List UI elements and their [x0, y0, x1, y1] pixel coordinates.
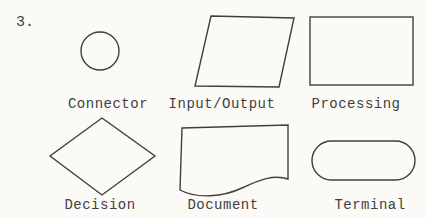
terminal-label: Terminal	[305, 197, 427, 213]
processing-label: Processing	[291, 96, 421, 112]
connector-circle-symbol	[81, 32, 119, 70]
decision-label: Decision	[35, 197, 165, 213]
document-label: Document	[158, 197, 288, 213]
processing-rectangle-symbol	[310, 17, 413, 85]
connector-label: Connector	[43, 96, 173, 112]
input-output-label: Input/Output	[157, 96, 287, 112]
decision-diamond-symbol	[50, 118, 155, 195]
document-symbol	[180, 125, 288, 196]
flowchart-symbols-figure: 3. Connector Input/Output Processing Dec…	[0, 0, 427, 218]
terminal-stadium-symbol	[312, 141, 415, 180]
input-output-parallelogram-symbol	[195, 16, 294, 87]
